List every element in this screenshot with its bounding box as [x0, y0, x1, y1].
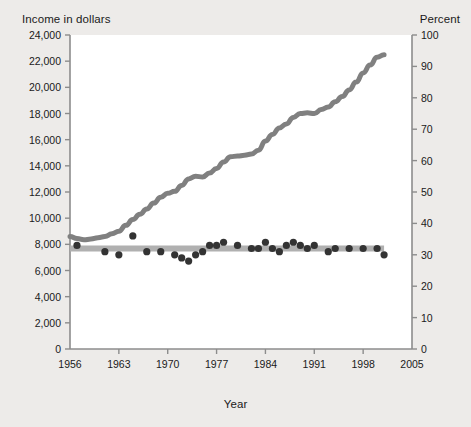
svg-text:1956: 1956: [58, 358, 82, 370]
svg-text:70: 70: [421, 123, 433, 135]
svg-text:10: 10: [421, 312, 433, 324]
svg-text:10,000: 10,000: [29, 212, 61, 224]
svg-text:2005: 2005: [400, 358, 424, 370]
x-axis-ticks: 19561963197019771984199119982005: [58, 349, 424, 370]
svg-text:2,000: 2,000: [35, 317, 61, 329]
svg-text:6,000: 6,000: [35, 265, 61, 277]
svg-text:50: 50: [421, 186, 433, 198]
svg-text:16,000: 16,000: [29, 134, 61, 146]
svg-text:0: 0: [55, 343, 61, 355]
svg-text:80: 80: [421, 92, 433, 104]
svg-text:1963: 1963: [107, 358, 131, 370]
svg-text:18,000: 18,000: [29, 108, 61, 120]
svg-text:24,000: 24,000: [29, 29, 61, 41]
svg-text:8,000: 8,000: [35, 238, 61, 250]
svg-text:14,000: 14,000: [29, 160, 61, 172]
chart-figure: Income in dollars Percent Year Personal …: [0, 0, 471, 427]
svg-text:4,000: 4,000: [35, 291, 61, 303]
chart-plot-area: 02,0004,0006,0008,00010,00012,00014,0001…: [0, 0, 471, 427]
svg-text:40: 40: [421, 217, 433, 229]
svg-text:12,000: 12,000: [29, 186, 61, 198]
svg-text:20: 20: [421, 280, 433, 292]
plot-background: [70, 35, 412, 349]
svg-text:1991: 1991: [303, 358, 327, 370]
y-axis-left-ticks: 02,0004,0006,0008,00010,00012,00014,0001…: [29, 29, 70, 355]
svg-text:1977: 1977: [205, 358, 229, 370]
svg-text:0: 0: [421, 343, 427, 355]
svg-text:100: 100: [421, 29, 439, 41]
svg-text:30: 30: [421, 249, 433, 261]
svg-text:22,000: 22,000: [29, 55, 61, 67]
y-axis-right-ticks: 0102030405060708090100: [412, 29, 439, 355]
svg-text:1998: 1998: [351, 358, 375, 370]
svg-text:90: 90: [421, 60, 433, 72]
svg-text:1984: 1984: [254, 358, 278, 370]
svg-text:60: 60: [421, 155, 433, 167]
svg-text:20,000: 20,000: [29, 81, 61, 93]
svg-text:1970: 1970: [156, 358, 180, 370]
